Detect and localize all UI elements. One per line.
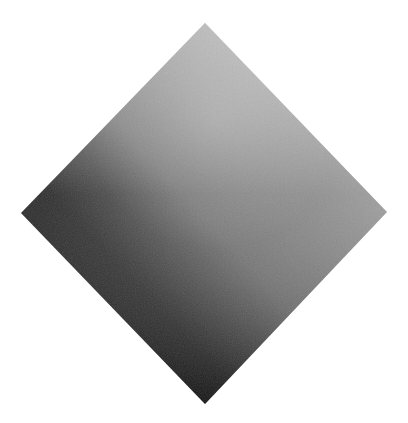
diamond-grain <box>21 23 387 404</box>
gradient-diamond-shape <box>0 0 408 423</box>
canvas <box>0 0 408 423</box>
